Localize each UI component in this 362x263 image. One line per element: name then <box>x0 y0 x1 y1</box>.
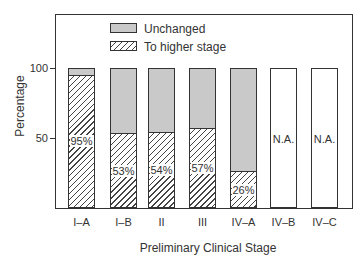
segment-higher-stage: 95% <box>69 76 94 208</box>
ytick-label-100: 100 <box>30 62 48 74</box>
segment-unchanged <box>190 69 215 129</box>
x-tick-label: IV–B <box>272 216 296 228</box>
bar-label-na: N.A. <box>314 133 335 145</box>
segment-higher-stage: 57% <box>190 129 215 207</box>
bar-percent-label: 26% <box>231 184 255 196</box>
bar: 57% <box>189 68 216 208</box>
segment-higher-stage: 54% <box>149 133 174 207</box>
bar: N.A. <box>270 68 297 208</box>
bar: 54% <box>148 68 175 208</box>
x-tick-label: I–A <box>73 216 90 228</box>
bar: 26% <box>230 68 257 208</box>
bar-label-na: N.A. <box>273 133 294 145</box>
x-tick-label: II <box>158 216 164 228</box>
segment-unchanged <box>111 69 136 134</box>
bar-percent-label: 53% <box>111 165 135 177</box>
segment-higher-stage: 26% <box>231 172 256 207</box>
bar-percent-label: 57% <box>190 162 214 174</box>
bar: 95% <box>68 68 95 208</box>
x-axis-title: Preliminary Clinical Stage <box>140 241 277 255</box>
y-axis-title: Percentage <box>13 75 27 136</box>
ytick-100 <box>50 68 56 70</box>
x-tick-label: I–B <box>115 216 132 228</box>
segment-unchanged <box>231 69 256 172</box>
legend-swatch-unchanged <box>110 23 137 33</box>
segment-higher-stage: 53% <box>111 134 136 207</box>
x-tick-label: III <box>198 216 207 228</box>
ytick-50 <box>50 138 56 140</box>
legend-swatch-higher-stage <box>110 41 137 51</box>
segment-unchanged <box>149 69 174 133</box>
bar-percent-label: 54% <box>149 164 173 176</box>
x-tick-label: IV–C <box>312 216 336 228</box>
x-tick-label: IV–A <box>232 216 256 228</box>
legend-label-unchanged: Unchanged <box>144 22 205 36</box>
bar-percent-label: 95% <box>69 135 93 147</box>
bar: N.A. <box>311 68 338 208</box>
bar: 53% <box>110 68 137 208</box>
ytick-label-50: 50 <box>36 132 48 144</box>
legend-label-higher-stage: To higher stage <box>144 40 226 54</box>
